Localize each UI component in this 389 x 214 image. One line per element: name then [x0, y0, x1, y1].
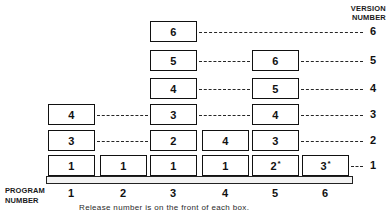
release-number: 3 — [272, 135, 278, 147]
program-axis-title-line1: PROGRAM — [5, 186, 45, 196]
figure-canvas: VERSION NUMBER 65645434324311112*3* 6543… — [0, 0, 389, 214]
release-box: 1 — [100, 155, 147, 176]
release-box: 3 — [48, 130, 95, 151]
release-number: 2 — [170, 135, 176, 147]
release-number: 1 — [170, 160, 176, 172]
release-number: 4 — [222, 135, 228, 147]
version-axis-title-line2: NUMBER — [351, 13, 386, 22]
dashed-connector — [199, 115, 250, 116]
program-tick-label: 2 — [100, 187, 146, 199]
release-number: 2 — [271, 160, 277, 172]
release-box: 3 — [252, 130, 299, 151]
release-number: 5 — [272, 83, 278, 95]
release-number: 1 — [120, 160, 126, 172]
figure-caption: Release number is on the front of each b… — [79, 203, 249, 212]
dashed-connector — [351, 166, 363, 167]
shelf-bar — [46, 176, 353, 184]
program-tick-label: 1 — [48, 187, 94, 199]
release-box: 1 — [48, 155, 95, 176]
version-axis-title-line1: VERSION — [351, 4, 386, 13]
dashed-connector — [301, 141, 363, 142]
dashed-connector — [301, 61, 363, 62]
program-axis-title-line2: NUMBER — [5, 196, 45, 206]
release-box: 3* — [302, 155, 349, 176]
release-number: 3 — [170, 109, 176, 121]
release-box: 2 — [150, 130, 197, 151]
version-number-axis-title: VERSION NUMBER — [351, 4, 386, 22]
release-number: 1 — [222, 160, 228, 172]
dashed-connector — [199, 89, 250, 90]
version-tick-label: 1 — [370, 159, 384, 171]
dashed-connector — [97, 141, 148, 142]
release-number: 3 — [321, 160, 327, 172]
release-number: 4 — [272, 109, 278, 121]
version-tick-label: 4 — [370, 82, 384, 94]
release-number: 6 — [272, 55, 278, 67]
release-box: 1 — [150, 155, 197, 176]
release-box: 1 — [202, 155, 249, 176]
release-number: 4 — [68, 109, 74, 121]
release-box: 4 — [202, 130, 249, 151]
program-tick-label: 6 — [302, 187, 348, 199]
release-number: 5 — [170, 55, 176, 67]
release-number: 3 — [68, 135, 74, 147]
version-tick-label: 5 — [370, 54, 384, 66]
dashed-connector — [97, 115, 148, 116]
dashed-connector — [301, 89, 363, 90]
release-number: 1 — [68, 160, 74, 172]
dashed-connector — [199, 61, 250, 62]
version-tick-label: 3 — [370, 108, 384, 120]
release-box: 2* — [252, 155, 299, 176]
release-number: 6 — [170, 26, 176, 38]
program-number-axis-title: PROGRAM NUMBER — [5, 186, 45, 205]
release-box: 3 — [150, 104, 197, 125]
program-tick-label: 3 — [150, 187, 196, 199]
release-box: 4 — [252, 104, 299, 125]
dashed-connector — [301, 115, 363, 116]
program-tick-label: 4 — [202, 187, 248, 199]
release-box: 4 — [48, 104, 95, 125]
release-box: 6 — [252, 50, 299, 71]
release-box: 5 — [150, 50, 197, 71]
release-box: 4 — [150, 78, 197, 99]
release-number: 4 — [170, 83, 176, 95]
dashed-connector — [199, 32, 363, 33]
release-box: 5 — [252, 78, 299, 99]
program-tick-label: 5 — [252, 187, 298, 199]
version-tick-label: 6 — [370, 25, 384, 37]
version-tick-label: 2 — [370, 134, 384, 146]
release-box: 6 — [150, 21, 197, 42]
